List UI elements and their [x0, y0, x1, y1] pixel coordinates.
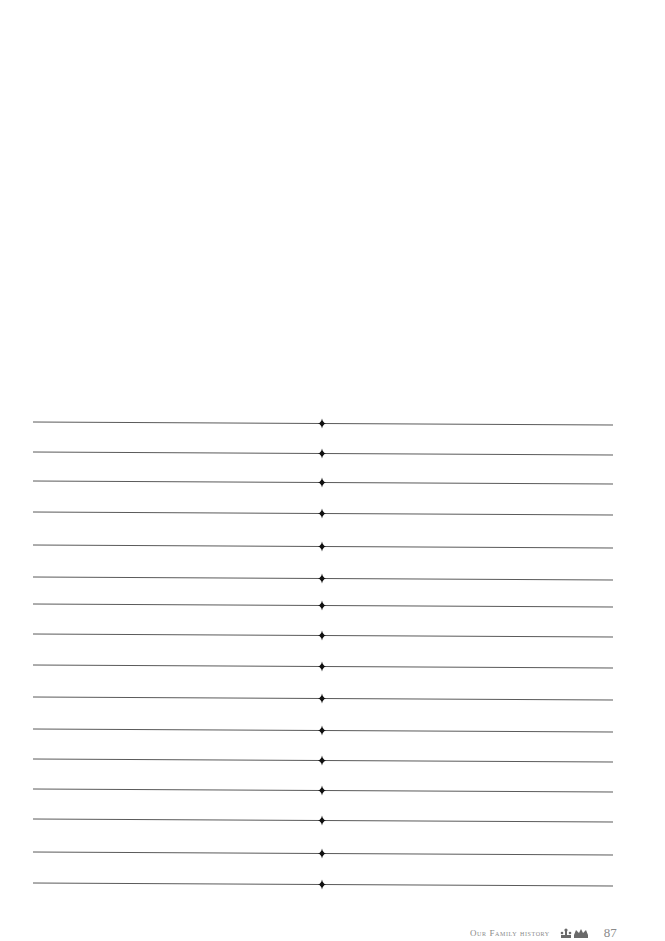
footer-title: Our Family history [470, 928, 550, 938]
diamond-icon [318, 756, 326, 766]
ruled-line [33, 509, 613, 519]
ruled-lines [0, 0, 665, 941]
ruled-line [33, 880, 613, 890]
ruled-line [33, 662, 613, 672]
ruled-line [33, 786, 613, 796]
ruled-line [33, 601, 613, 611]
ruled-line [33, 631, 613, 641]
diamond-icon [318, 662, 326, 672]
ruled-line [33, 478, 613, 488]
crown-ornament-icon [560, 927, 590, 939]
diamond-icon [318, 631, 326, 641]
ruled-line [33, 449, 613, 459]
page-number: 87 [604, 925, 617, 941]
diamond-icon [318, 816, 326, 826]
diamond-icon [318, 726, 326, 736]
ruled-line [33, 694, 613, 704]
diamond-icon [318, 574, 326, 584]
ruled-line [33, 756, 613, 766]
diamond-icon [318, 880, 326, 890]
diamond-icon [318, 478, 326, 488]
ruled-line [33, 726, 613, 736]
diamond-icon [318, 509, 326, 519]
ruled-line [33, 574, 613, 584]
diamond-icon [318, 694, 326, 704]
ruled-line [33, 816, 613, 826]
diamond-icon [318, 419, 326, 429]
diamond-icon [318, 542, 326, 552]
diamond-icon [318, 849, 326, 859]
ruled-line [33, 542, 613, 552]
diamond-icon [318, 449, 326, 459]
diamond-icon [318, 786, 326, 796]
ruled-line [33, 419, 613, 429]
page-footer: Our Family history 87 [470, 926, 617, 940]
diamond-icon [318, 601, 326, 611]
ruled-line [33, 849, 613, 859]
